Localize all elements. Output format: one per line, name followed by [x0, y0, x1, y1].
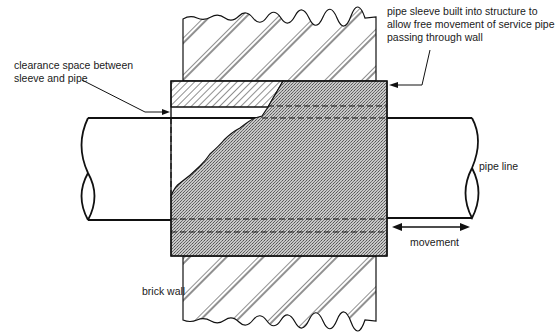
brick-wall-lower — [183, 256, 376, 331]
brick-wall-label: brick wall — [142, 285, 185, 298]
sleeve-label: pipe sleeve built into structure to allo… — [387, 5, 555, 44]
sleeve-label-line-3: passing through wall — [387, 31, 555, 44]
brick-wall-upper — [183, 7, 376, 81]
movement-arrow — [392, 223, 470, 231]
sleeve-label-line-2: allow free movement of service pipe — [387, 18, 555, 31]
movement-label: movement — [410, 236, 459, 249]
clearance-label-line-2: sleeve and pipe — [14, 72, 133, 85]
clearance-label: clearance space between sleeve and pipe — [14, 59, 133, 85]
pipe-line-label: pipe line — [479, 160, 518, 173]
sleeve-label-line-1: pipe sleeve built into structure to — [387, 5, 555, 18]
clearance-leader — [82, 80, 170, 115]
pipe-right — [387, 118, 479, 218]
pipe-left — [82, 118, 172, 220]
sleeve-leader — [389, 50, 430, 88]
clearance-label-line-1: clearance space between — [14, 59, 133, 72]
